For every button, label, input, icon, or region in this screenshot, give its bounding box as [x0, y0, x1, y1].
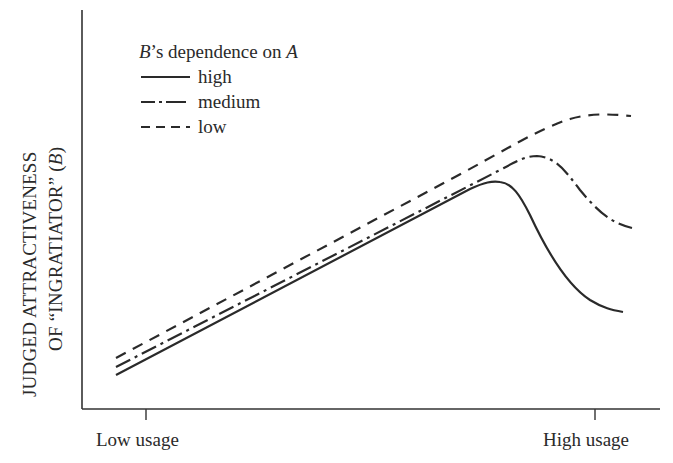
y-axis-label: JUDGED ATTRACTIVENESS OF “INGRATIATOR” (… [19, 147, 67, 397]
line-chart: JUDGED ATTRACTIVENESS OF “INGRATIATOR” (… [0, 0, 673, 463]
legend-title: B’s dependence on A [139, 41, 298, 62]
series-low-curve [116, 114, 631, 358]
legend-label-medium: medium [198, 91, 260, 112]
y-axis-label-var: B [45, 153, 66, 165]
x-tick-label-high: High usage [543, 429, 629, 450]
plot-area [116, 114, 632, 375]
y-axis-label-line1: JUDGED ATTRACTIVENESS [19, 152, 40, 397]
legend-title-text: ’s dependence on [151, 41, 287, 62]
legend-label-low: low [198, 116, 227, 137]
axes [82, 10, 660, 420]
legend-title-var-b: B [139, 41, 151, 62]
y-axis-label-close: ) [45, 147, 67, 154]
legend-title-var-a: A [284, 41, 298, 62]
legend-label-high: high [198, 66, 232, 87]
y-axis-label-line2-text: OF “INGRATIATOR” ( [45, 165, 67, 351]
x-tick-label-low: Low usage [96, 429, 179, 450]
series-high-curve [116, 182, 623, 375]
y-axis-label-line2: OF “INGRATIATOR” (B) [45, 147, 67, 351]
legend: B’s dependence on A high medium low [139, 41, 298, 137]
